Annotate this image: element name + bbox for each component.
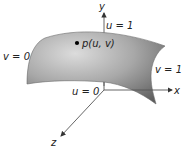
u1-label: u = 1 — [106, 20, 133, 31]
point-label: p(u, v) — [81, 38, 115, 49]
x-axis-label: x — [173, 85, 180, 96]
point-marker — [75, 41, 79, 45]
parametric-surface-diagram: p(u, v) y x z u = 1 v = 0 v = 1 u = 0 — [0, 0, 183, 150]
z-axis-label: z — [50, 137, 57, 148]
v0-label: v = 0 — [3, 51, 30, 62]
y-axis-label: y — [98, 1, 106, 12]
v1-label: v = 1 — [155, 64, 182, 75]
u0-label: u = 0 — [72, 86, 99, 97]
